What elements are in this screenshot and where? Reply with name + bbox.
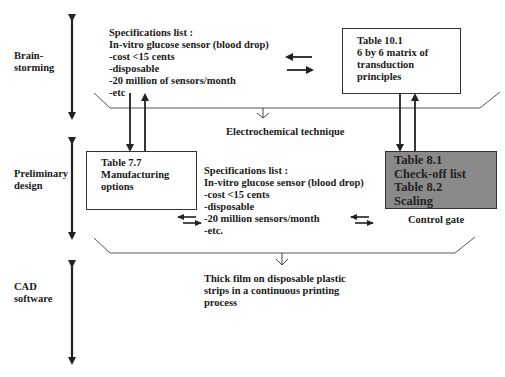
box-line: options — [101, 181, 196, 193]
spec-item: -etc — [109, 87, 269, 99]
label-line: Brain- — [14, 50, 54, 62]
box-line: transduction — [357, 59, 460, 71]
box-line: Manufacturing — [101, 169, 196, 181]
stage-label-cad: CAD software — [14, 281, 52, 305]
control-gate-box: Table 8.1 Check-off list Table 8.2 Scali… — [385, 151, 497, 209]
spec-item: In-vitro glucose sensor (blood drop) — [204, 177, 364, 189]
box-line: Scaling — [394, 195, 496, 209]
stage-label-brainstorming: Brain- storming — [14, 50, 54, 74]
spec-list-title: Specifications list : — [109, 27, 269, 39]
output-line: process — [204, 297, 346, 309]
box-line: Table 7.7 — [101, 157, 196, 169]
box-line: Table 8.1 — [394, 154, 496, 168]
label-line: storming — [14, 62, 54, 74]
spec-list-mid: Specifications list : In-vitro glucose s… — [204, 165, 364, 237]
spec-list-title: Specifications list : — [204, 165, 364, 177]
label-line: Preliminary — [14, 168, 68, 180]
funnel-1-output-label: Electrochemical technique — [226, 126, 345, 138]
spec-item: -cost <15 cents — [204, 189, 364, 201]
box-line: Check-off list — [394, 168, 496, 182]
funnel-2 — [94, 237, 475, 253]
spec-item: -cost <15 cents — [109, 51, 269, 63]
spec-item: -disposable — [204, 201, 364, 213]
box-line: Table 10.1 — [357, 35, 460, 47]
output-line: Thick film on disposable plastic — [204, 273, 346, 285]
box-line: 6 by 6 matrix of — [357, 47, 460, 59]
funnel-2-output-label: Thick film on disposable plastic strips … — [204, 273, 346, 309]
stage-label-preliminary: Preliminary design — [14, 168, 68, 192]
table-7-7-box: Table 7.7 Manufacturing options — [86, 151, 197, 210]
box-line: Table 8.2 — [394, 181, 496, 195]
table-10-1-box: Table 10.1 6 by 6 matrix of transduction… — [342, 28, 461, 94]
spec-list-top: Specifications list : In-vitro glucose s… — [109, 27, 269, 99]
spec-item: In-vitro glucose sensor (blood drop) — [109, 39, 269, 51]
label-line: software — [14, 293, 52, 305]
label-line: design — [14, 180, 68, 192]
control-gate-label: Control gate — [408, 214, 464, 226]
label-line: CAD — [14, 281, 52, 293]
spec-item: -disposable — [109, 63, 269, 75]
spec-item: -etc. — [204, 225, 364, 237]
spec-item: -20 million of sensors/month — [109, 75, 269, 87]
output-line: strips in a continuous printing — [204, 285, 346, 297]
box-line: principles — [357, 71, 460, 83]
spec-item: -20 million sensors/month — [204, 213, 364, 225]
